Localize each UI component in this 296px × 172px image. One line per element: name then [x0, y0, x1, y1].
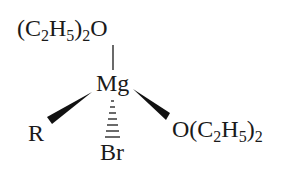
- ligand-top-diethyl-ether: (C2H5)2O: [17, 16, 108, 40]
- ligand-left-r: R: [28, 121, 44, 145]
- wedge-bond-mg-r: [47, 92, 92, 124]
- grignard-etherate-structure: (C2H5)2O Mg R Br O(C2H5)2: [0, 0, 296, 172]
- wedge-bond-mg-o-right: [133, 89, 170, 120]
- ligand-right-diethyl-ether: O(C2H5)2: [172, 117, 263, 141]
- ligand-bottom-br: Br: [100, 140, 124, 164]
- hash-bond-mg-br: [105, 101, 120, 137]
- center-atom-mg: Mg: [96, 71, 129, 95]
